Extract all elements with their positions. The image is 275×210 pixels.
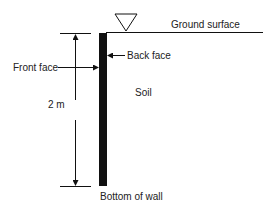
height-label: 2 m [48, 99, 65, 110]
front-face-label: Front face [13, 62, 58, 73]
retaining-wall [99, 33, 107, 186]
retaining-wall-diagram: Ground surface Back face Front face 2 m … [0, 0, 275, 210]
ground-surface-label: Ground surface [171, 19, 240, 30]
bottom-of-wall-label: Bottom of wall [100, 191, 163, 202]
inverted-triangle-icon [115, 14, 137, 31]
back-face-label: Back face [127, 50, 171, 61]
soil-label: Soil [135, 87, 152, 98]
